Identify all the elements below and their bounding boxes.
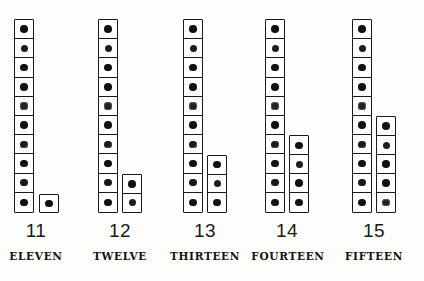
dot-cell (353, 78, 371, 97)
dot-icon (358, 160, 366, 168)
dot-icon (295, 199, 303, 207)
dot-cell (15, 97, 33, 116)
dot-cell (99, 116, 117, 135)
dot-icon (271, 83, 279, 91)
dot-icon (296, 161, 303, 168)
ones-column (39, 194, 59, 213)
dot-icon (128, 180, 136, 188)
dot-cell (266, 58, 284, 77)
dot-cell (15, 193, 33, 212)
dot-cell (184, 20, 202, 39)
dot-icon (383, 142, 390, 149)
dot-icon (104, 64, 112, 72)
dot-icon (295, 142, 303, 150)
ones-column (289, 135, 309, 213)
dot-icon (104, 25, 112, 33)
dot-icon (214, 180, 221, 187)
dot-cell (184, 154, 202, 173)
dot-icon (189, 102, 196, 109)
dot-icon (271, 121, 279, 129)
dot-cell (266, 20, 284, 39)
dot-icon (271, 102, 278, 109)
word-label: THIRTEEN (161, 250, 249, 263)
dot-icon (271, 179, 278, 186)
dot-cell (15, 58, 33, 77)
dot-icon (359, 45, 366, 52)
dot-icon (189, 121, 197, 129)
dot-cell (353, 135, 371, 154)
dot-icon (189, 199, 197, 207)
dot-icon (271, 64, 279, 72)
numeral-label: 11 (6, 220, 66, 242)
dot-icon (104, 83, 112, 91)
dot-icon (20, 102, 27, 109)
dot-cell (184, 39, 202, 58)
dot-icon (20, 160, 28, 168)
dot-cell (99, 58, 117, 77)
dot-icon (104, 199, 112, 207)
dot-icon (105, 45, 112, 52)
dot-icon (382, 179, 390, 187)
dot-cell (353, 39, 371, 58)
dot-cell (266, 39, 284, 58)
dot-icon (358, 121, 366, 129)
dot-cell (15, 154, 33, 173)
dot-cell (15, 135, 33, 154)
tens-column (352, 19, 372, 213)
dot-icon (358, 102, 365, 109)
numeral-label: 12 (90, 220, 150, 242)
dot-icon (20, 83, 28, 91)
dot-icon (213, 199, 221, 207)
dot-icon (271, 160, 279, 168)
dot-cell (184, 174, 202, 193)
dot-cell (266, 116, 284, 135)
dot-icon (20, 121, 28, 129)
dot-cell (99, 20, 117, 39)
dot-cell (266, 193, 284, 212)
dot-icon (358, 179, 365, 186)
dot-icon (189, 179, 196, 186)
dot-icon (20, 64, 28, 72)
dot-cell (353, 58, 371, 77)
dot-icon (104, 102, 111, 109)
dot-icon (382, 160, 390, 168)
dot-icon (20, 199, 28, 207)
word-label: FIFTEEN (334, 250, 414, 263)
dot-cell (184, 97, 202, 116)
dot-cell (377, 193, 395, 212)
dot-cell (353, 193, 371, 212)
dot-icon (45, 200, 53, 208)
tens-column (183, 19, 203, 213)
dot-cell (15, 78, 33, 97)
tens-column (98, 19, 118, 213)
dot-icon (20, 179, 27, 186)
dot-cell (99, 135, 117, 154)
dot-cell (290, 193, 308, 212)
dot-cell (353, 116, 371, 135)
dot-cell (40, 195, 58, 212)
dot-cell (208, 193, 226, 212)
dot-cell (353, 174, 371, 193)
word-label: TWELVE (82, 250, 158, 263)
dot-cell (266, 135, 284, 154)
dot-cell (377, 174, 395, 193)
dot-icon (358, 141, 365, 148)
dot-cell (184, 135, 202, 154)
dot-icon (213, 161, 221, 169)
dot-icon (129, 199, 136, 206)
numeral-label: 14 (257, 220, 317, 242)
dot-cell (266, 154, 284, 173)
dot-cell (99, 97, 117, 116)
dot-icon (21, 45, 28, 52)
dot-cell (266, 97, 284, 116)
dot-icon (189, 25, 197, 33)
dot-icon (271, 25, 279, 33)
word-label: FOURTEEN (242, 250, 334, 263)
dot-cell (99, 154, 117, 173)
tens-column (14, 19, 34, 213)
dot-cell (353, 154, 371, 173)
dot-cell (266, 174, 284, 193)
dot-icon (382, 122, 390, 130)
ones-column (122, 174, 142, 213)
tens-column (265, 19, 285, 213)
